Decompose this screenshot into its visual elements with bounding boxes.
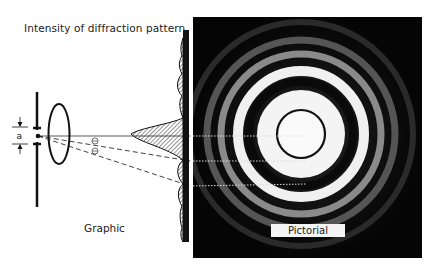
graphic-label: Graphic (84, 222, 125, 234)
pictorial-label: Pictorial (271, 224, 345, 237)
dotted-connectors (0, 0, 433, 269)
